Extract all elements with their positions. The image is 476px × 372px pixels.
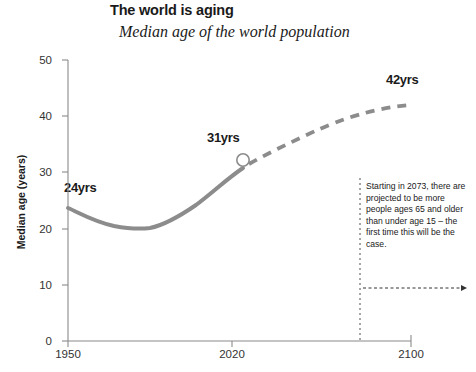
chart-plot-area [0,0,476,372]
projected-line [249,105,411,164]
current-value-marker [237,154,249,166]
historical-line [68,168,243,229]
chart-figure: The world is aging Median age of the wor… [0,0,476,372]
